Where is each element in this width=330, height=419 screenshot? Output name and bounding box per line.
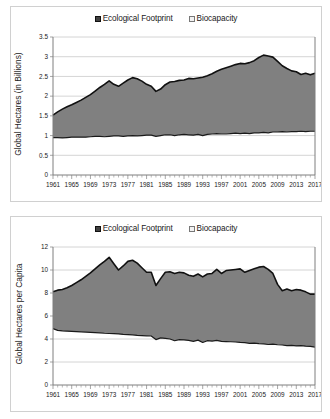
x-tick-label: 1993: [196, 181, 211, 188]
x-tick-label: 1977: [121, 181, 136, 188]
x-tick-label: 1961: [46, 181, 61, 188]
x-tick-label: 2001: [233, 181, 248, 188]
x-tick-label: 1997: [214, 391, 229, 398]
x-tick-label: 1993: [196, 391, 211, 398]
x-tick-label: 1977: [121, 391, 136, 398]
chart-panel-top: Ecological Footprint Biocapacity Global …: [10, 6, 322, 202]
y-tick-label: 0: [44, 171, 48, 178]
y-tick-label: 10: [41, 266, 49, 273]
x-tick-label: 1961: [46, 391, 61, 398]
x-tick-label: 1981: [139, 391, 154, 398]
x-tick-label: 1973: [102, 181, 117, 188]
y-tick-label: 0.5: [39, 152, 48, 159]
y-tick-label: 6: [44, 312, 48, 319]
figure-container: Ecological Footprint Biocapacity Global …: [0, 0, 330, 419]
x-tick-label: 1997: [214, 181, 229, 188]
x-tick-label: 1985: [158, 181, 173, 188]
x-tick-label: 2013: [289, 181, 304, 188]
x-tick-label: 1969: [83, 181, 98, 188]
chart-panel-bottom: Ecological Footprint Biocapacity Global …: [10, 216, 322, 412]
y-tick-label: 2.5: [39, 73, 48, 80]
y-tick-label: 3.5: [39, 33, 48, 40]
x-tick-label: 1989: [177, 391, 192, 398]
y-tick-label: 1: [44, 132, 48, 139]
x-tick-label: 1965: [65, 181, 80, 188]
x-tick-label: 1981: [139, 181, 154, 188]
x-tick-label: 2017: [308, 181, 321, 188]
y-tick-label: 4: [44, 335, 48, 342]
x-tick-label: 1969: [83, 391, 98, 398]
y-tick-label: 2: [44, 92, 48, 99]
x-tick-label: 1973: [102, 391, 117, 398]
x-tick-label: 2009: [270, 181, 285, 188]
chart-svg-bottom: 0246810121961196519691973197719811985198…: [11, 217, 321, 411]
x-tick-label: 2017: [308, 391, 321, 398]
x-tick-label: 2001: [233, 391, 248, 398]
x-tick-label: 2005: [252, 391, 267, 398]
x-tick-label: 2013: [289, 391, 304, 398]
series-area-footprint-band: [53, 55, 315, 138]
x-tick-label: 2009: [270, 391, 285, 398]
y-tick-label: 0: [44, 381, 48, 388]
y-tick-label: 2: [44, 358, 48, 365]
y-tick-label: 1.5: [39, 112, 48, 119]
y-tick-label: 8: [44, 289, 48, 296]
x-tick-label: 1985: [158, 391, 173, 398]
y-tick-label: 3: [44, 53, 48, 60]
plot-area-bottom: 0246810121961196519691973197719811985198…: [11, 217, 321, 411]
plot-area-top: 00.511.522.533.5196119651969197319771981…: [11, 7, 321, 201]
x-tick-label: 1989: [177, 181, 192, 188]
x-tick-label: 2005: [252, 181, 267, 188]
y-tick-label: 12: [41, 243, 49, 250]
chart-svg-top: 00.511.522.533.5196119651969197319771981…: [11, 7, 321, 201]
x-tick-label: 1965: [65, 391, 80, 398]
